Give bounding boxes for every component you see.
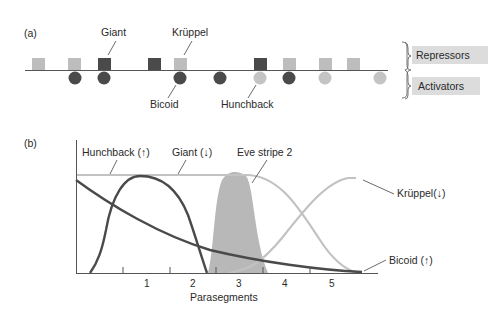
legend-activators: Activators — [418, 80, 464, 92]
label-kruppel: Krüppel — [172, 26, 208, 38]
repressor-site — [32, 58, 45, 70]
panel-b-label: (b) — [24, 137, 37, 149]
activator-site — [98, 72, 111, 85]
brace-activators — [405, 70, 411, 99]
tick-label-2: 2 — [190, 278, 196, 289]
pointer-giant — [108, 41, 116, 55]
tick-label-3: 3 — [236, 278, 242, 289]
activator-site — [374, 72, 387, 85]
repressor-site — [148, 58, 161, 70]
pointer-giant-curve — [178, 160, 186, 174]
tick-label-4: 4 — [282, 278, 288, 289]
label-eve-stripe-2: Eve stripe 2 — [237, 146, 293, 158]
activator-site — [283, 72, 296, 85]
tick-label-5: 5 — [329, 278, 335, 289]
pointer-bicoid — [168, 85, 176, 98]
panel-a: (a) Giant Krüppel — [24, 26, 488, 110]
panel-b: (b) 1 2 3 4 5 Parasegments Hunchback (↑) — [24, 137, 445, 303]
repressor-site-giant — [98, 58, 111, 70]
repressor-site — [347, 58, 360, 70]
label-bicoid: Bicoid — [150, 98, 179, 110]
eve-stripe-2-area — [208, 172, 268, 273]
repressor-sites — [32, 58, 360, 70]
repressor-site — [319, 58, 332, 70]
label-giant-curve: Giant (↓) — [172, 146, 212, 158]
activator-site-hunchback — [254, 72, 267, 85]
tick-label-1: 1 — [144, 278, 150, 289]
activator-site-bicoid — [174, 72, 187, 85]
activator-sites — [69, 72, 387, 85]
repressor-site — [283, 58, 296, 70]
x-ticks — [123, 267, 310, 273]
activator-site — [319, 72, 332, 85]
brace-repressors — [405, 42, 411, 70]
pointer-hunchback — [248, 85, 256, 98]
pointer-bicoid-curve — [364, 260, 386, 271]
repressor-site — [254, 58, 267, 70]
label-bicoid-curve: Bicoid (↑) — [389, 254, 433, 266]
activator-site — [69, 72, 82, 85]
legend-repressors: Repressors — [416, 49, 470, 61]
pointer-kruppel — [184, 41, 192, 55]
activator-site — [214, 72, 227, 85]
label-giant: Giant — [101, 26, 126, 38]
label-hunchback-curve: Hunchback (↑) — [82, 146, 150, 158]
panel-a-label: (a) — [24, 27, 37, 39]
repressor-site — [68, 58, 81, 70]
label-kruppel-curve: Krüppel(↓) — [397, 187, 445, 199]
repressor-site-kruppel — [174, 58, 187, 70]
pointer-kruppel-curve — [363, 180, 394, 194]
x-axis-label: Parasegments — [190, 291, 258, 303]
figure: (a) Giant Krüppel — [0, 0, 493, 321]
pointer-hunchback-curve — [110, 160, 117, 174]
label-hunchback: Hunchback — [221, 98, 274, 110]
